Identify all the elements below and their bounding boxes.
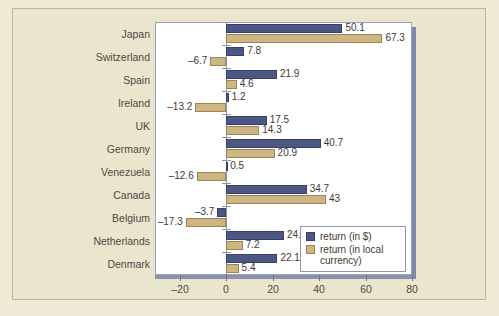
category-label-ireland: Ireland (20, 97, 150, 109)
bar-value-belgium-local: –17.3 (158, 217, 183, 227)
bar-value-canada-dollar: 34.7 (310, 184, 329, 194)
bar-japan-local (226, 34, 382, 43)
bar-switzerland-local (210, 57, 226, 66)
bar-value-spain-dollar: 21.9 (280, 69, 299, 79)
bar-value-venezuela-local: –12.6 (169, 171, 194, 181)
bar-denmark-local (226, 264, 239, 273)
bar-canada-dollar (226, 185, 307, 194)
bar-venezuela-dollar (226, 162, 228, 171)
bar-value-venezuela-dollar: 0.5 (230, 161, 244, 171)
figure-root: JapanSwitzerlandSpainIrelandUKGermanyVen… (0, 0, 499, 316)
bar-value-uk-dollar: 17.5 (270, 115, 289, 125)
bar-value-canada-local: 43 (329, 194, 340, 204)
bar-value-japan-dollar: 50.1 (345, 23, 364, 33)
bar-chart: JapanSwitzerlandSpainIrelandUKGermanyVen… (0, 0, 499, 316)
bar-value-denmark-local: 5.4 (242, 263, 256, 273)
bar-germany-dollar (226, 139, 321, 148)
bar-germany-local (226, 149, 275, 158)
bar-value-japan-local: 67.3 (385, 33, 404, 43)
legend-item-local: return (in localcurrency) (306, 244, 400, 266)
bar-value-ireland-local: –13.2 (167, 102, 192, 112)
x-tick-label--20: –20 (160, 283, 200, 295)
category-label-uk: UK (20, 120, 150, 132)
x-tick-0 (226, 275, 227, 281)
x-tick-80 (412, 275, 413, 281)
bar-spain-local (226, 80, 237, 89)
bar-value-switzerland-dollar: 7.8 (247, 46, 261, 56)
bar-belgium-local (186, 218, 226, 227)
x-tick-40 (319, 275, 320, 281)
bar-japan-dollar (226, 24, 342, 33)
legend-swatch-dollar-icon (306, 232, 315, 241)
bar-uk-local (226, 126, 259, 135)
x-tick-label-20: 20 (253, 283, 293, 295)
bar-belgium-dollar (217, 208, 226, 217)
x-tick-60 (366, 275, 367, 281)
category-axis-labels: JapanSwitzerlandSpainIrelandUKGermanyVen… (18, 22, 150, 275)
x-tick--20 (180, 275, 181, 281)
category-label-venezuela: Venezuela (20, 166, 150, 178)
category-label-netherlands: Netherlands (20, 235, 150, 247)
legend-swatch-local-icon (306, 245, 315, 254)
bar-venezuela-local (197, 172, 226, 181)
bar-value-germany-local: 20.9 (278, 148, 297, 158)
category-label-denmark: Denmark (20, 258, 150, 270)
legend-label-local: return (in localcurrency) (320, 244, 383, 266)
bar-ireland-local (195, 103, 226, 112)
bar-value-uk-local: 14.3 (262, 125, 281, 135)
bar-switzerland-dollar (226, 47, 244, 56)
bar-uk-dollar (226, 116, 267, 125)
bar-value-switzerland-local: –6.7 (188, 56, 207, 66)
chart-legend: return (in $) return (in localcurrency) (300, 226, 406, 272)
x-axis-line (155, 275, 412, 279)
bar-value-germany-dollar: 40.7 (324, 138, 343, 148)
legend-label-local-line2: currency) (320, 255, 362, 266)
bar-netherlands-local (226, 241, 243, 250)
bar-value-spain-local: 4.6 (240, 79, 254, 89)
bar-ireland-dollar (226, 93, 229, 102)
x-tick-label-80: 80 (392, 283, 432, 295)
category-label-germany: Germany (20, 143, 150, 155)
bar-value-belgium-dollar: –3.7 (195, 207, 214, 217)
category-label-belgium: Belgium (20, 212, 150, 224)
x-tick-label-0: 0 (206, 283, 246, 295)
x-tick-20 (273, 275, 274, 281)
category-label-japan: Japan (20, 28, 150, 40)
bar-value-ireland-dollar: 1.2 (232, 92, 246, 102)
bar-value-netherlands-local: 7.2 (246, 240, 260, 250)
bar-value-denmark-dollar: 22.1 (280, 253, 299, 263)
category-label-spain: Spain (20, 74, 150, 86)
bar-canada-local (226, 195, 326, 204)
category-label-switzerland: Switzerland (20, 51, 150, 63)
category-label-canada: Canada (20, 189, 150, 201)
legend-item-dollar: return (in $) (306, 231, 400, 242)
legend-label-local-line1: return (in local (320, 244, 383, 255)
x-tick-label-60: 60 (346, 283, 386, 295)
x-tick-label-40: 40 (299, 283, 339, 295)
legend-label-dollar: return (in $) (320, 231, 372, 242)
